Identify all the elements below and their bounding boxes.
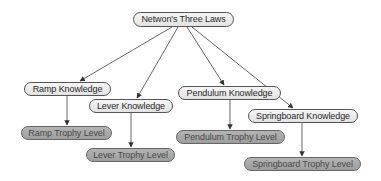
node-ramp-trophy-level[interactable]: Ramp Trophy Level [21, 126, 112, 140]
node-label: Lever Trophy Level [93, 150, 168, 160]
node-newtons-three-laws[interactable]: Netwon's Three Laws [133, 12, 234, 27]
node-lever-trophy-level[interactable]: Lever Trophy Level [86, 148, 175, 162]
node-springboard-knowledge[interactable]: Springboard Knowledge [248, 109, 358, 123]
node-label: Ramp Knowledge [33, 84, 103, 94]
node-springboard-trophy-level[interactable]: Springboard Trophy Level [244, 157, 361, 171]
edge-root-ramp [80, 27, 172, 81]
node-pendulum-trophy-level[interactable]: Pendulum Trophy Level [176, 130, 285, 144]
node-label: Ramp Trophy Level [28, 128, 104, 138]
concept-map: Netwon's Three Laws Ramp Knowledge Lever… [0, 0, 381, 181]
node-label: Lever Knowledge [97, 101, 165, 111]
node-pendulum-knowledge[interactable]: Pendulum Knowledge [178, 86, 281, 100]
node-label: Netwon's Three Laws [141, 14, 225, 24]
node-label: Springboard Trophy Level [252, 159, 353, 169]
node-label: Pendulum Trophy Level [184, 132, 276, 142]
node-label: Springboard Knowledge [256, 111, 350, 121]
edge-root-pendulum [187, 27, 224, 85]
edge-root-lever [137, 27, 178, 98]
node-lever-knowledge[interactable]: Lever Knowledge [89, 99, 173, 113]
node-label: Pendulum Knowledge [187, 88, 273, 98]
node-ramp-knowledge[interactable]: Ramp Knowledge [24, 82, 111, 96]
